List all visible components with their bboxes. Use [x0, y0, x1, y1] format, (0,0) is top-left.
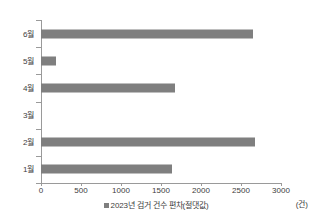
x-axis-tick-label: 3000: [272, 186, 290, 195]
x-axis-tick-label: 2000: [192, 186, 210, 195]
axis-unit-label: (건): [296, 200, 308, 209]
y-axis-tick-label: 1월: [23, 165, 34, 174]
y-axis-tick-label: 4월: [23, 83, 34, 92]
category-row: 3월: [41, 102, 281, 129]
y-axis-tick-label: 3월: [23, 111, 34, 120]
legend-label: 2023년 검거 건수 편차(절댓값): [111, 201, 209, 210]
bar-chart: 6월5월4월3월2월1월 050010001500200025003000 20…: [0, 0, 312, 221]
category-row: 4월: [41, 74, 281, 101]
bar: [41, 29, 253, 38]
bar: [41, 56, 56, 65]
bar: [41, 165, 172, 174]
category-row: 6월: [41, 20, 281, 47]
category-row: 2월: [41, 129, 281, 156]
bar: [41, 83, 175, 92]
bar: [41, 138, 255, 147]
x-axis-tick-label: 500: [74, 186, 87, 195]
x-axis-tick-label: 0: [39, 186, 43, 195]
y-axis-tick-label: 5월: [23, 56, 34, 65]
x-axis-tick-label: 2500: [232, 186, 250, 195]
legend-swatch-icon: [104, 203, 109, 208]
x-axis-tick-label: 1500: [152, 186, 170, 195]
category-row: 5월: [41, 47, 281, 74]
y-axis-tick-label: 2월: [23, 138, 34, 147]
y-axis-tick-label: 6월: [23, 29, 34, 38]
category-row: 1월: [41, 156, 281, 183]
x-axis-tick-label: 1000: [112, 186, 130, 195]
chart-legend: 2023년 검거 건수 편차(절댓값): [0, 201, 312, 210]
